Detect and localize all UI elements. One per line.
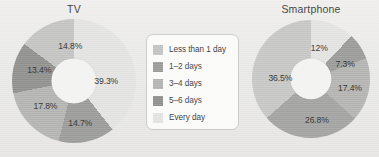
legend-item-every-day[interactable]: Every day xyxy=(153,109,238,126)
slice-label: 17.8% xyxy=(34,101,58,111)
slice-label: 39.3% xyxy=(94,76,118,86)
slice-label: 13.4% xyxy=(27,65,51,75)
legend-swatch-5-6-days xyxy=(153,96,163,106)
slice-label: 12% xyxy=(311,43,328,53)
slice-label: 17.4% xyxy=(338,83,362,93)
legend-item-3-4-days[interactable]: 3–4 days xyxy=(153,75,238,92)
slice-label: 26.8% xyxy=(305,115,329,125)
tv-chart-title: TV xyxy=(4,3,144,15)
tv-donut: 39.3%14.7%17.8%13.4%14.8% xyxy=(12,19,136,143)
chart-canvas: TV 39.3%14.7%17.8%13.4%14.8% Less than 1… xyxy=(0,0,379,157)
smartphone-donut: 12%7.3%17.4%26.8%36.5% xyxy=(252,20,370,138)
legend-label-1-2-days: 1–2 days xyxy=(169,62,202,71)
legend-label-less-than-1-day: Less than 1 day xyxy=(169,45,226,54)
legend-swatch-less-than-1-day xyxy=(153,45,163,55)
legend-item-5-6-days[interactable]: 5–6 days xyxy=(153,92,238,109)
slice-label: 14.7% xyxy=(68,118,92,128)
legend-item-1-2-days[interactable]: 1–2 days xyxy=(153,58,238,75)
chart-legend: Less than 1 day 1–2 days 3–4 days 5–6 da… xyxy=(146,34,239,130)
legend-item-less-than-1-day[interactable]: Less than 1 day xyxy=(153,41,238,58)
smartphone-chart-title: Smartphone xyxy=(243,3,379,15)
tv-chart: TV 39.3%14.7%17.8%13.4%14.8% xyxy=(4,0,144,157)
slice-label: 14.8% xyxy=(58,41,82,51)
legend-label-every-day: Every day xyxy=(169,113,205,122)
legend-swatch-3-4-days xyxy=(153,79,163,89)
legend-swatch-1-2-days xyxy=(153,62,163,72)
legend-label-3-4-days: 3–4 days xyxy=(169,79,202,88)
smartphone-chart: Smartphone 12%7.3%17.4%26.8%36.5% xyxy=(243,0,379,157)
slice-label: 36.5% xyxy=(268,73,292,83)
slice-label: 7.3% xyxy=(336,59,355,69)
legend-swatch-every-day xyxy=(153,113,163,123)
legend-label-5-6-days: 5–6 days xyxy=(169,96,202,105)
